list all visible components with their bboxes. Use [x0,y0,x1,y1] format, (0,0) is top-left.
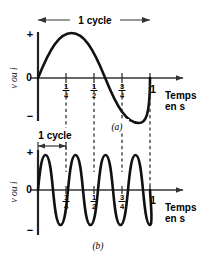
panel-a-y-zero: 0 [26,72,32,83]
svg-text:4: 4 [120,202,125,211]
panel-a-y-plus: + [27,28,33,40]
panel-a-temps-line2: en s [165,101,185,112]
panel-a-x-axis-label: Temps en s [165,90,197,112]
top-cycle-arrow-right [142,17,150,23]
svg-text:3: 3 [120,193,124,202]
panel-a-y-axis-label: v ou i [9,67,19,88]
panel-b-caption: (b) [92,241,103,252]
bottom-cycle-arrow-left [38,143,45,148]
top-cycle-annotation: 1 cycle [38,13,150,27]
panel-b-y-minus: − [27,224,33,236]
waveform-figure: 1 cycle + 0 − v ou i 1 4 1 2 3 [0,0,209,262]
panel-a-x-axis-arrowhead [176,75,183,81]
panel-a-caption: (a) [111,122,122,133]
panel-a-y-minus: − [27,110,33,122]
bottom-cycle-label: 1 cycle [38,130,72,141]
panel-b-temps-line2: en s [165,213,185,224]
panel-a-temps-line1: Temps [165,90,197,101]
top-cycle-arrow-left [38,17,46,23]
panel-b-temps-line1: Temps [165,202,197,213]
panel-b-tick-label-3: 3 4 [119,193,126,211]
panel-b-x-axis-arrowhead [176,187,183,193]
panel-b-y-zero: 0 [26,184,32,195]
bottom-cycle-arrow-right [59,143,66,148]
top-cycle-label: 1 cycle [78,15,112,26]
panel-b-y-axis-label: v ou i [9,181,19,202]
panel-b-y-plus: + [27,146,33,158]
panel-b: + 0 − v ou i 1 4 1 2 3 4 1 Tem [9,146,197,252]
svg-text:1: 1 [92,193,96,202]
panel-b-x-axis-label: Temps en s [165,202,197,224]
